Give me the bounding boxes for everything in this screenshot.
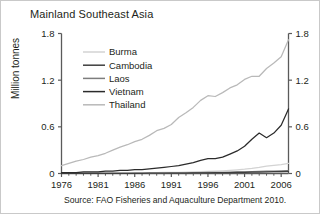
chart-figure: Mainland Southeast Asia Million tonnes 1… <box>0 0 320 214</box>
legend-label-laos: Laos <box>109 73 130 84</box>
source-caption: Source: FAO Fisheries and Aquaculture De… <box>64 195 286 205</box>
chart-legend: BurmaCambodiaLaosVietnamThailand <box>83 46 153 110</box>
legend-label-burma: Burma <box>109 46 138 57</box>
legend-label-cambodia: Cambodia <box>109 60 153 71</box>
x-tick-label: 1991 <box>161 179 182 190</box>
y-tick-label-left: 0 <box>49 168 54 179</box>
y-tick-label-right: 0.6 <box>296 121 309 132</box>
legend-label-vietnam: Vietnam <box>109 86 144 97</box>
line-chart-plot: 1.81.81.21.20.60.60019761981198619911996… <box>1 1 320 214</box>
x-tick-label: 1976 <box>51 179 72 190</box>
y-tick-label-left: 1.8 <box>41 28 54 39</box>
y-tick-label-right: 0 <box>296 168 301 179</box>
y-tick-label-right: 1.8 <box>296 28 309 39</box>
x-tick-label: 1996 <box>197 179 218 190</box>
x-tick-label: 1981 <box>88 179 109 190</box>
series-line-vietnam <box>62 109 289 173</box>
x-tick-label: 1986 <box>124 179 145 190</box>
x-tick-label: 2001 <box>234 179 255 190</box>
legend-label-thailand: Thailand <box>109 99 145 110</box>
series-line-thailand <box>62 40 289 166</box>
series-lines-group <box>62 40 289 174</box>
y-tick-label-left: 0.6 <box>41 121 54 132</box>
y-tick-label-right: 1.2 <box>296 75 309 86</box>
y-tick-label-left: 1.2 <box>41 75 54 86</box>
x-tick-label: 2006 <box>271 179 292 190</box>
